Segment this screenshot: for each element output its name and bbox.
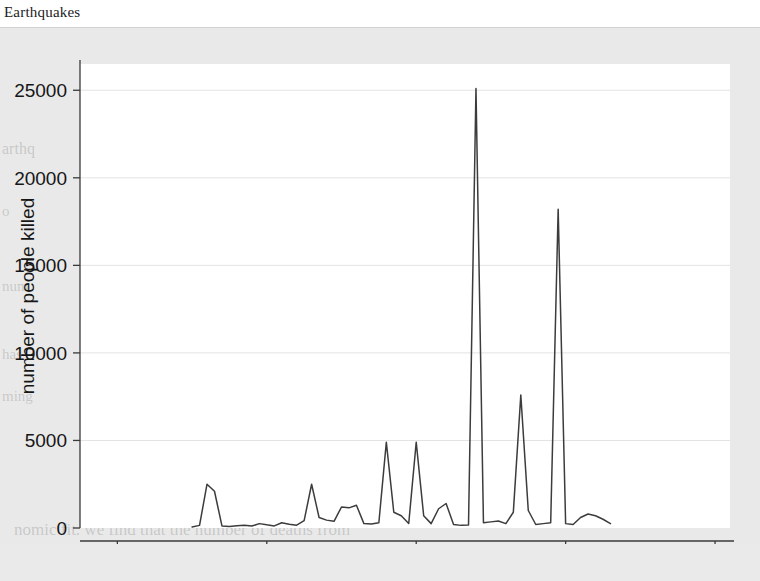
series-group — [192, 89, 610, 527]
figure-caption: Earthquakes — [4, 4, 80, 21]
tick-labels-group: 0500010000150002000025000194019601980200… — [14, 80, 736, 545]
earthquakes-line-chart: 0500010000150002000025000194019601980200… — [0, 28, 760, 545]
figure-page: Earthquakes arthqonumhasmingnomic fit. w… — [0, 0, 760, 581]
page-top-margin — [0, 0, 760, 27]
data-series-line — [192, 89, 610, 527]
gridlines-group — [80, 90, 730, 440]
y-tick-label: 0 — [56, 518, 67, 539]
y-tick-label: 25000 — [14, 80, 67, 101]
figure-frame: arthqonumhasmingnomic fit. we find that … — [0, 27, 760, 546]
y-tick-label: 5000 — [25, 430, 67, 451]
y-tick-label: 20000 — [14, 168, 67, 189]
y-axis-title: number of people killed — [17, 198, 38, 394]
tick-marks-group — [73, 90, 715, 545]
axes-group — [80, 60, 734, 541]
page-bottom-margin — [0, 544, 760, 581]
